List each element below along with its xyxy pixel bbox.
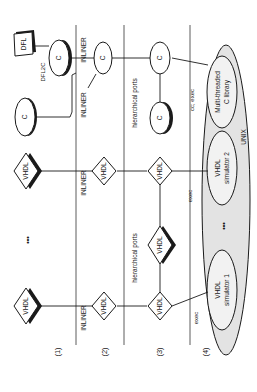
vhdl-label: VHDL <box>100 297 107 315</box>
vhdl-node-r3-b: VHDL <box>148 157 172 185</box>
row-label-1: (1) <box>53 347 62 357</box>
vhdl-node-r3-mid: VHDL <box>148 226 176 264</box>
lib-line1: Multi-threaded <box>214 71 221 113</box>
dfl-label: DFL <box>20 37 27 50</box>
vhdl-node-r1-a: VHDL <box>14 288 42 324</box>
vhdl-node-r1-b: VHDL <box>14 153 42 189</box>
inliner-label-b: INLINER <box>80 170 87 196</box>
hier-ports-label-a: hierarchical ports <box>131 233 139 283</box>
c-node-r1: C <box>15 98 37 136</box>
vhdl-ellipsis-r1: ••• <box>24 236 31 244</box>
vhdl-label: VHDL <box>22 297 29 315</box>
c-label: C <box>55 55 62 60</box>
c-node-r1-dfl: C <box>49 40 72 76</box>
row-label-3: (3) <box>155 347 164 357</box>
c-label: C <box>156 55 163 60</box>
inliner-label-c: INLINER <box>80 92 87 118</box>
vhdl-node-r2-b: VHDL <box>92 157 116 185</box>
c-node-r3-shadow: C <box>150 102 173 134</box>
lib-line2: C library <box>223 79 231 104</box>
dfl-document: DFL <box>14 30 36 56</box>
vhdl-label: VHDL <box>100 162 107 180</box>
multithreaded-c-library: Multi-threaded C library <box>207 56 237 128</box>
sim2-line2: simulator 2 <box>223 152 230 184</box>
row-label-2: (2) <box>100 347 109 357</box>
c-label: C <box>156 115 163 120</box>
simulators-ellipsis: ••• <box>220 222 227 230</box>
vhdl-label: VHDL <box>22 162 29 180</box>
edge-inliner-r2c <box>88 74 96 88</box>
c-node-r2: C <box>94 42 112 74</box>
vhdl-label: VHDL <box>156 162 163 180</box>
inliner-label-a: INLINER <box>80 305 87 331</box>
sim1-line2: simulator 1 <box>223 274 230 306</box>
inliner-label-d: INLINER <box>80 37 87 63</box>
vhdl-label: VHDL <box>156 236 163 254</box>
sim2-line1: VHDL <box>214 159 221 177</box>
exec-label-b: exec <box>187 190 193 203</box>
c-label: C <box>99 55 106 60</box>
c-node-r3: C <box>150 42 170 74</box>
sim1-line1: VHDL <box>214 281 221 299</box>
dfl2c-label: DFL2C <box>40 62 46 82</box>
vhdl-label: VHDL <box>156 297 163 315</box>
vhdl-simulator-2: VHDL simulator 2 <box>207 131 237 205</box>
hier-ports-label-b: hierarchical ports <box>131 78 139 128</box>
vhdl-node-r3-a: VHDL <box>148 292 172 320</box>
vhdl-node-r2-a: VHDL <box>92 292 116 320</box>
unix-label: UNIX <box>240 129 247 145</box>
cc-exec-label: cc; exec <box>189 89 195 111</box>
compilation-flow-diagram: (1) (2) (3) (4) UNIX VHDL simulator 1 ••… <box>0 0 257 392</box>
exec-label-a: exec <box>193 312 199 325</box>
row-label-4: (4) <box>201 347 210 357</box>
c-label: C <box>21 114 28 119</box>
vhdl-simulator-1: VHDL simulator 1 <box>207 250 237 330</box>
